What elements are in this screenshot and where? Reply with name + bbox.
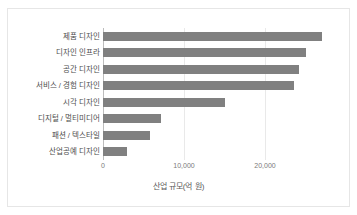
bar-row	[103, 78, 343, 95]
y-tick-0: 제품 디자인	[10, 28, 100, 45]
y-tick-label: 산업공예 디자인	[49, 148, 100, 156]
y-axis-labels: 제품 디자인 디자인 인프라 공간 디자인 서비스 / 경험 디자인 시각 디자…	[10, 28, 100, 160]
bar	[103, 65, 299, 74]
bar-row	[103, 61, 343, 78]
bar	[103, 98, 225, 107]
bar-row	[103, 144, 343, 161]
bar-row	[103, 45, 343, 62]
y-tick-6: 패션 / 텍스타일	[10, 127, 100, 144]
y-tick-label: 시각 디자인	[63, 99, 100, 107]
bar	[103, 131, 150, 140]
bar-row	[103, 94, 343, 111]
x-tick-label: 0	[101, 162, 105, 169]
y-tick-2: 공간 디자인	[10, 61, 100, 78]
bar	[103, 114, 161, 123]
bar-row	[103, 28, 343, 45]
y-tick-5: 디지털 / 멀티미디어	[10, 111, 100, 128]
y-tick-label: 패션 / 텍스타일	[52, 132, 100, 140]
y-tick-label: 서비스 / 경험 디자인	[36, 82, 100, 90]
bar-series	[103, 28, 343, 160]
y-tick-3: 서비스 / 경험 디자인	[10, 78, 100, 95]
bar	[103, 48, 306, 57]
bar-row	[103, 111, 343, 128]
y-tick-label: 공간 디자인	[63, 66, 100, 74]
x-tick-label: 10,000	[173, 162, 194, 169]
x-axis-title: 산업 규모(억 원)	[0, 180, 357, 191]
y-tick-label: 제품 디자인	[63, 33, 100, 41]
y-tick-label: 디지털 / 멀티미디어	[38, 115, 100, 123]
bar	[103, 32, 322, 41]
y-tick-7: 산업공예 디자인	[10, 144, 100, 161]
y-tick-label: 디자인 인프라	[56, 49, 100, 57]
y-tick-1: 디자인 인프라	[10, 45, 100, 62]
bar	[103, 147, 127, 156]
bar-row	[103, 127, 343, 144]
bar	[103, 81, 294, 90]
x-tick-label: 20,000	[254, 162, 275, 169]
x-axis-ticks: 0 10,000 20,000	[0, 162, 357, 174]
chart-figure: 제품 디자인 디자인 인프라 공간 디자인 서비스 / 경험 디자인 시각 디자…	[0, 0, 357, 215]
y-tick-4: 시각 디자인	[10, 94, 100, 111]
